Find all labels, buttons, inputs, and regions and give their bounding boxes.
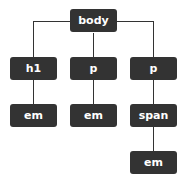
edge-span-em3 [153, 127, 154, 151]
node-label: body [78, 14, 108, 27]
node-body: body [70, 9, 117, 32]
node-p: p [70, 57, 117, 80]
node-span: span [130, 104, 177, 127]
edge-body-p1 [93, 33, 94, 57]
node-em: em [130, 151, 177, 174]
node-em: em [10, 104, 57, 127]
edge-p1-em2 [93, 80, 94, 104]
node-label: em [84, 109, 103, 122]
node-label: p [90, 62, 98, 75]
node-label: span [139, 109, 169, 122]
edge-body-h1 [33, 21, 34, 57]
node-label: em [144, 156, 163, 169]
node-em: em [70, 104, 117, 127]
node-label: h1 [26, 62, 42, 75]
edge-body-p2 [153, 21, 154, 57]
edge-h1-em1 [33, 80, 34, 104]
node-h1: h1 [10, 57, 57, 80]
node-label: p [150, 62, 158, 75]
node-p: p [130, 57, 177, 80]
node-label: em [24, 109, 43, 122]
edge-p2-span [153, 80, 154, 104]
